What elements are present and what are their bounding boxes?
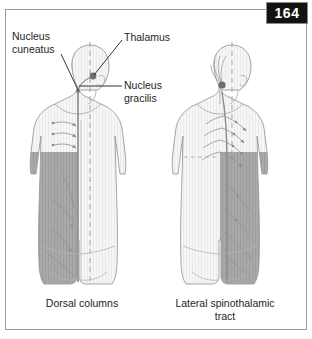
illustration-page: 164	[0, 0, 312, 339]
label-nucleus-cuneatus: Nucleus cuneatus	[12, 30, 55, 55]
caption-dorsal-columns: Dorsal columns	[22, 297, 142, 310]
shaded-sensory-loss-region-left	[20, 152, 80, 302]
figure-dorsal-columns	[20, 40, 140, 302]
figure-lateral-spinothalamic	[165, 40, 285, 302]
page-number-badge: 164	[266, 2, 308, 24]
caption-lateral-spinothalamic-tract: Lateral spinothalamic tract	[165, 297, 285, 322]
thalamus-dot-right	[218, 81, 225, 88]
label-nucleus-gracilis: Nucleus gracilis	[124, 79, 162, 104]
label-thalamus: Thalamus	[124, 31, 170, 44]
shaded-sensory-loss-region-right	[220, 152, 280, 302]
